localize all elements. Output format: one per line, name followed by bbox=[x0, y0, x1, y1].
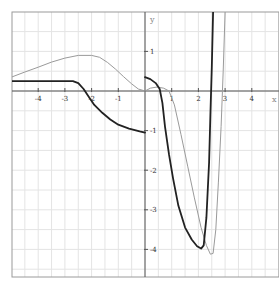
x-tick-label: 2 bbox=[196, 95, 200, 103]
function-plot: -4-3-2-112341-1-2-3-4 x y bbox=[0, 0, 279, 298]
y-tick-label: -1 bbox=[150, 127, 157, 135]
x-tick-label: 4 bbox=[250, 95, 255, 103]
x-tick-label: -4 bbox=[35, 95, 42, 103]
x-tick-label: -1 bbox=[115, 95, 122, 103]
x-tick-label: 3 bbox=[223, 95, 227, 103]
y-axis-label: y bbox=[149, 15, 155, 24]
x-axis-label: x bbox=[272, 95, 277, 104]
y-tick-label: -4 bbox=[150, 246, 157, 254]
x-tick-label: -3 bbox=[61, 95, 68, 103]
y-tick-label: -3 bbox=[150, 206, 157, 214]
y-tick-label: 1 bbox=[150, 48, 154, 56]
y-tick-label: -2 bbox=[150, 167, 157, 175]
